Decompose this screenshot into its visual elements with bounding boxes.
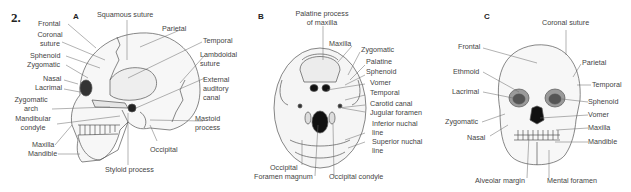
label-sphenoid-c: Sphenoid (588, 98, 618, 107)
label-palatine-process-2: of maxilla (290, 19, 354, 28)
label-squamous-suture: Squamous suture (97, 11, 153, 20)
panel-letter-c: C (484, 12, 490, 21)
label-mand-condyle-2: condyle (8, 124, 58, 133)
label-palatine-b: Palatine (366, 58, 392, 67)
label-occipital: Occipital (150, 146, 178, 155)
panel-letter-a: A (73, 12, 79, 21)
label-frontal-c: Frontal (458, 43, 480, 52)
label-sphenoid-b: Sphenoid (366, 68, 396, 77)
label-zyg-arch-2: arch (10, 105, 52, 114)
label-zygomatic-c: Zygomatic (445, 118, 478, 127)
label-jugular-foramen: Jugular foramen (370, 109, 422, 118)
panel-letter-b: B (258, 12, 264, 21)
label-mandible-c: Mandible (588, 138, 617, 147)
label-frontal: Frontal (38, 20, 60, 29)
label-coronal-suture-2: suture (35, 40, 65, 49)
label-styloid-process: Styloid process (105, 166, 154, 175)
skull-illustrations (0, 0, 631, 192)
label-zygomatic: Zygomatic (27, 61, 60, 70)
label-temporal-b: Temporal (370, 89, 400, 98)
label-lacrimal-c: Lacrimal (452, 88, 479, 97)
label-zygomatic-b: Zygomatic (361, 46, 394, 55)
label-nasal-c: Nasal (467, 134, 485, 143)
anterior-skull-drawing (498, 45, 580, 165)
label-mastoid-2: process (195, 124, 220, 133)
label-alveolar-margin: Alveolar margin (475, 177, 525, 186)
label-maxilla-c: Maxilla (588, 124, 610, 133)
label-temporal: Temporal (203, 37, 233, 46)
label-ethmoid: Ethmoid (453, 68, 479, 77)
label-vomer-b: Vomer (370, 79, 391, 88)
label-coronal-suture-c: Coronal suture (542, 19, 589, 28)
label-vomer-c: Vomer (588, 111, 609, 120)
label-occipital-condyle: Occipital condyle (329, 173, 383, 182)
label-mental-foramen: Mental foramen (547, 177, 597, 186)
label-lacrimal: Lacrimal (35, 84, 62, 93)
label-external-3: canal (203, 94, 220, 103)
inferior-skull-drawing (274, 48, 366, 168)
label-parietal: Parietal (162, 25, 186, 34)
label-maxilla-b: Maxilla (329, 40, 351, 49)
label-parietal-c: Parietal (582, 59, 606, 68)
label-lambdoidal-2: suture (200, 60, 220, 69)
label-temporal-c: Temporal (592, 81, 622, 90)
label-superior-nuchal-2: line (372, 147, 383, 156)
label-mandible: Mandible (28, 150, 57, 159)
label-foramen-magnum: Foramen magnum (254, 173, 313, 182)
